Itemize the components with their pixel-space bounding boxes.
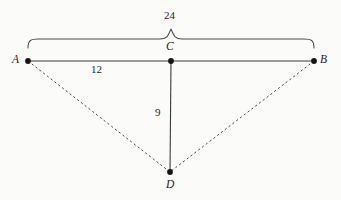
vertex-label-c: C — [166, 41, 174, 53]
vertex-label-d: D — [166, 179, 174, 191]
diagram-canvas — [0, 0, 341, 200]
measure-label-cd: 9 — [155, 107, 161, 118]
segment-cd — [170, 61, 171, 172]
vertex-label-a: A — [12, 54, 19, 66]
vertex-label-b: B — [320, 54, 327, 66]
segment-bd — [170, 61, 314, 172]
vertex-dot-d — [167, 169, 173, 175]
vertex-dot-c — [168, 58, 174, 64]
vertex-dot-a — [25, 58, 31, 64]
geometry-diagram: A B C D 24 12 9 — [0, 0, 341, 200]
measure-label-ac: 12 — [91, 64, 102, 75]
vertex-dot-b — [311, 58, 317, 64]
segment-ad — [28, 61, 170, 172]
measure-label-ab: 24 — [164, 10, 175, 21]
